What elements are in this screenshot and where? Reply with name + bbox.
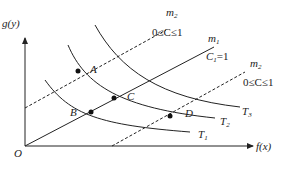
m1-constraint: C1=1 bbox=[206, 50, 229, 64]
m2-upper-constraint: 0≤C≤1 bbox=[152, 26, 182, 38]
x-axis-label: f(x) bbox=[256, 140, 272, 153]
point-b bbox=[89, 110, 94, 115]
label-c: C bbox=[127, 90, 135, 102]
point-c bbox=[112, 96, 117, 101]
label-d: D bbox=[184, 107, 193, 119]
label-b: B bbox=[70, 106, 77, 118]
m1-label: m1 bbox=[208, 32, 219, 46]
t3-label: T3 bbox=[242, 105, 252, 119]
point-d bbox=[168, 114, 173, 119]
m2-lower-constraint: 0≤C≤1 bbox=[243, 76, 273, 88]
t2-label: T2 bbox=[220, 115, 230, 129]
y-axis-label: g(y) bbox=[2, 17, 20, 30]
diagram-canvas: A B C D g(y) f(x) O m2 0≤C≤1 m1 C1=1 m2 … bbox=[0, 0, 294, 169]
origin-label: O bbox=[14, 147, 22, 159]
label-a: A bbox=[89, 63, 97, 75]
line-m2-lower bbox=[112, 72, 245, 146]
point-a bbox=[76, 69, 81, 74]
m2-upper-label: m2 bbox=[166, 6, 178, 20]
t1-label: T1 bbox=[198, 128, 208, 142]
m2-lower-label: m2 bbox=[250, 57, 262, 71]
